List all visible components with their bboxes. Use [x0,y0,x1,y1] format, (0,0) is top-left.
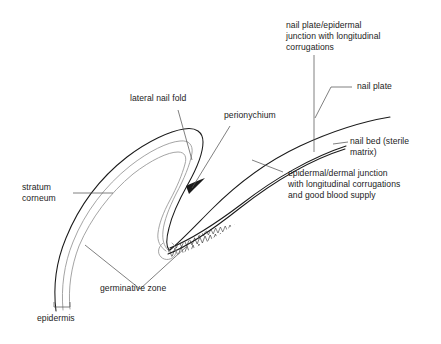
label-lateral-nail-fold: lateral nail fold [130,93,186,104]
diagram-canvas: nail plate/epidermal junction with longi… [0,0,441,344]
label-epidermis: epidermis [37,313,75,324]
leader-epidermal-dermal-junction [252,160,283,172]
label-nail-plate: nail plate [357,81,392,92]
leader-perionychium [192,126,230,188]
label-stratum-corneum: stratum corneum [22,182,56,204]
bracket-epidermis [54,302,70,307]
leader-nail-plate [315,87,352,118]
label-germinative-zone: germinative zone [100,283,166,294]
leader-nail-bed [333,142,348,144]
label-nail-bed: nail bed (sterile matrix) [350,136,409,158]
label-perionychium: perionychium [224,110,276,121]
perionychium-wedge [186,178,205,194]
longitudinal-corrugations [166,202,348,258]
label-nail-plate-epidermal-junction: nail plate/epidermal junction with longi… [286,20,380,54]
label-epidermal-dermal-junction: epidermal/dermal junction with longitudi… [288,168,400,202]
